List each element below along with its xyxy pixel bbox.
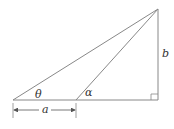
label-theta: θ — [35, 88, 42, 101]
diagram-svg: θ α a b — [0, 0, 174, 129]
right-angle-marker — [151, 94, 158, 100]
label-a: a — [42, 103, 49, 116]
label-b: b — [162, 47, 169, 60]
triangle-diagram: θ α a b — [0, 0, 174, 129]
label-alpha: α — [85, 86, 93, 99]
